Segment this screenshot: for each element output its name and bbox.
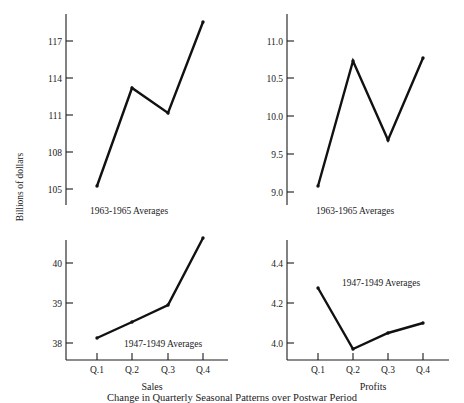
profits-upper-ticklabel-11-0: 11.0 [267, 37, 284, 47]
sales-1963-1965-point-q3 [166, 111, 169, 114]
profits-xticklabel-q3: Q.3 [381, 365, 395, 375]
sales-upper-ticklabel-114: 114 [48, 74, 62, 84]
sales-upper-ticklabel-108: 108 [48, 148, 63, 158]
sales-1963-1965-point-q2 [130, 86, 133, 89]
profits-panel-label: Profits [360, 381, 387, 392]
sales-1947-1949-point-q1 [95, 336, 98, 339]
sales-1947-1949-point-q3 [166, 303, 169, 306]
profits-annotation-1963-1965: 1963-1965 Averages [316, 206, 394, 216]
sales-annotation-1947-1949: 1947-1949 Averages [124, 339, 202, 349]
profits-lower-ticklabel-4-0: 4.0 [271, 339, 283, 349]
sales-1963-1965-point-q4 [201, 20, 204, 23]
sales-1947-1949-point-q4 [201, 236, 204, 239]
profits-upper-ticklabel-10-5: 10.5 [266, 74, 283, 84]
sales-1947-1949-line [97, 238, 203, 338]
sales-upper-ticklabel-111: 111 [48, 111, 62, 121]
sales-1963-1965-point-q1 [95, 184, 98, 187]
profits-1947-1949-point-q3 [386, 331, 389, 334]
sales-1947-1949-point-q2 [130, 320, 133, 323]
figure-caption: Change in Quarterly Seasonal Patterns ov… [107, 392, 358, 403]
sales-xticklabel-q1: Q.1 [90, 365, 104, 375]
sales-xticklabel-q3: Q.3 [161, 365, 175, 375]
profits-1963-1965-point-q3 [386, 138, 389, 141]
panel-sales: 117 114 111 108 105 1963-1965 Averages 4… [48, 14, 228, 392]
profits-upper-ticklabel-9-0: 9.0 [271, 188, 283, 198]
profits-lower-subplot: 4.4 4.2 4.0 Q.1 Q.2 Q.3 Q.4 1947-1949 Av… [271, 240, 449, 375]
profits-lower-ticklabel-4-2: 4.2 [271, 299, 283, 309]
profits-1963-1965-line [318, 58, 423, 186]
sales-xticklabel-q4: Q.4 [196, 365, 210, 375]
sales-upper-ticklabel-117: 117 [48, 37, 62, 47]
profits-1963-1965-point-q2 [351, 59, 354, 62]
profits-1963-1965-point-q1 [316, 184, 319, 187]
sales-panel-label: Sales [141, 381, 162, 392]
profits-upper-ticklabel-10-0: 10.0 [266, 112, 283, 122]
profits-upper-subplot: 11.0 10.5 10.0 9.5 9.0 1963-1965 Average… [266, 14, 424, 216]
profits-1947-1949-line [318, 288, 423, 349]
sales-lower-ticklabel-38: 38 [53, 339, 63, 349]
profits-1963-1965-point-q4 [421, 56, 424, 59]
profits-xticklabel-q1: Q.1 [311, 365, 325, 375]
seasonal-patterns-chart: Billions of dollars 117 114 111 108 105 … [0, 0, 464, 403]
profits-xticklabel-q4: Q.4 [416, 365, 430, 375]
profits-xticklabel-q2: Q.2 [346, 365, 360, 375]
profits-1947-1949-point-q4 [421, 321, 424, 324]
chart-figure: Billions of dollars 117 114 111 108 105 … [0, 0, 464, 403]
profits-1947-1949-point-q1 [316, 286, 319, 289]
sales-lower-subplot: 40 39 38 Q.1 Q.2 Q.3 Q.4 1947-1949 Avera… [53, 236, 229, 375]
profits-upper-ticklabel-9-5: 9.5 [271, 150, 283, 160]
sales-upper-subplot: 117 114 111 108 105 1963-1965 Averages [48, 14, 205, 216]
sales-annotation-1963-1965: 1963-1965 Averages [90, 206, 168, 216]
sales-xticklabel-q2: Q.2 [125, 365, 139, 375]
sales-1963-1965-line [97, 22, 203, 186]
profits-annotation-1947-1949: 1947-1949 Averages [342, 278, 420, 288]
profits-1947-1949-point-q2 [351, 347, 354, 350]
sales-lower-ticklabel-39: 39 [53, 299, 63, 309]
profits-lower-ticklabel-4-4: 4.4 [271, 259, 283, 269]
y-axis-label: Billions of dollars [15, 152, 25, 221]
sales-upper-ticklabel-105: 105 [48, 185, 63, 195]
panel-profits: 11.0 10.5 10.0 9.5 9.0 1963-1965 Average… [266, 14, 449, 392]
sales-lower-ticklabel-40: 40 [53, 259, 63, 269]
